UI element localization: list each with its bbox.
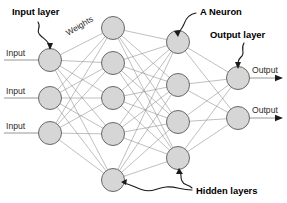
weights-label: Weights <box>64 14 95 38</box>
neuron-node <box>102 52 125 75</box>
neuron-node <box>227 107 250 130</box>
connection-edge <box>188 124 229 151</box>
connection-edge <box>61 61 101 63</box>
connection-edge <box>122 36 170 78</box>
connection-edge <box>119 94 171 170</box>
neural-network-diagram: Input layer Weights A Neuron Output laye… <box>0 0 287 203</box>
input-label: Input <box>6 86 26 96</box>
connection-edge <box>124 138 167 154</box>
connection-edge <box>124 30 167 39</box>
neuron-node <box>39 122 62 145</box>
hidden-layers-label: Hidden layers <box>196 185 257 196</box>
connection-edge <box>59 140 104 173</box>
connection-edge <box>185 87 231 149</box>
connection-edge <box>122 50 170 91</box>
connection-edge <box>56 38 107 123</box>
connection-edge <box>120 37 172 112</box>
connection-edge <box>122 130 170 173</box>
connection-edge <box>124 46 167 60</box>
neuron-node <box>167 111 190 134</box>
connection-edge <box>58 37 106 90</box>
a-neuron-label: A Neuron <box>200 6 242 17</box>
input-layer-pointer-line <box>38 22 50 46</box>
output-layer-label: Output layer <box>210 29 266 40</box>
connection-edge <box>122 92 169 127</box>
neuron-node <box>102 87 125 110</box>
neuron-node <box>102 17 125 40</box>
neuron-node <box>167 147 190 170</box>
connection-edge <box>124 124 166 132</box>
neuron-nodes <box>39 17 250 192</box>
connection-edge <box>188 48 228 72</box>
output-label: Output <box>252 65 278 75</box>
neuron-node <box>39 49 62 72</box>
output-label: Output <box>252 105 278 115</box>
neuron-node <box>102 123 125 146</box>
neuron-node <box>39 87 62 110</box>
neuron-node <box>102 169 125 192</box>
neuron-node <box>227 67 250 90</box>
annotation-output-layer: Output layer <box>210 29 266 69</box>
connection-edge <box>60 33 102 55</box>
connection-edge <box>188 91 228 113</box>
neuron-node <box>167 74 190 97</box>
hidden-layers-pointer-line-left <box>124 183 192 191</box>
input-layer-label: Input layer <box>12 6 60 17</box>
connection-edge <box>187 85 228 115</box>
output-arrowhead <box>275 115 283 121</box>
input-label: Input <box>6 48 26 58</box>
input-label: Input <box>6 121 26 131</box>
output-arrowhead <box>275 75 283 81</box>
annotation-input-layer: Input layer <box>12 6 60 50</box>
network-canvas: Input layer Weights A Neuron Output laye… <box>0 0 287 203</box>
connection-edge <box>124 162 167 177</box>
connection-edge <box>61 133 101 134</box>
connection-edges <box>55 30 231 176</box>
annotation-hidden-layers: Hidden layers <box>121 168 257 196</box>
connection-edge <box>189 119 226 121</box>
connection-edge <box>55 70 107 170</box>
annotation-weights: Weights <box>64 14 95 38</box>
